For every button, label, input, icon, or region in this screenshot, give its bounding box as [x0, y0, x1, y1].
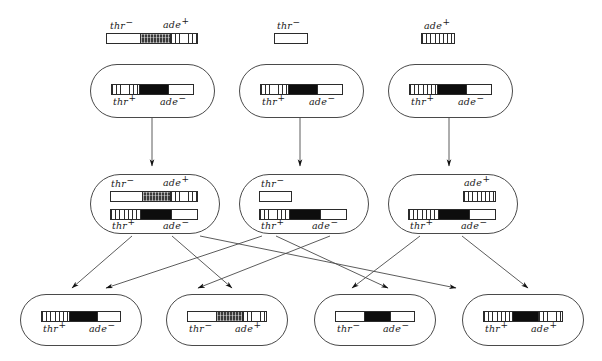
progeny-2-thr-label: thr−: [189, 323, 212, 334]
arrow-m3-to-p4: [462, 236, 528, 288]
m2f-seg-white: [260, 192, 291, 201]
merozygote-2-fragment-thr-label: thr−: [261, 178, 284, 189]
m3c-seg-black: [438, 210, 469, 219]
merozygote-cell-2: [239, 174, 369, 234]
m1c-seg-black: [140, 210, 171, 219]
progeny-4-thr-label: thr+: [485, 323, 508, 334]
m1f-seg-hatch: [170, 192, 197, 201]
merozygote-3-fragment-bar: [463, 191, 496, 202]
fragment-1-right-label: ade+: [163, 19, 189, 30]
progeny-2-ade-label: ade+: [235, 323, 261, 334]
merozygote-2-chromosome-ade-label: ade−: [312, 220, 338, 231]
merozygote-3-chromosome-ade-label: ade−: [461, 220, 487, 231]
fragment-1-seg-hatch: [170, 34, 197, 43]
fragment-1-left-label: thr−: [110, 20, 133, 31]
merozygote-1-chromosome-thr-label: thr+: [112, 220, 135, 231]
fragment-2-left-label: thr−: [277, 20, 300, 31]
fragment-1-bar: [106, 33, 198, 44]
p1-seg-black: [69, 312, 97, 321]
progeny-1-ade-label: ade−: [89, 323, 115, 334]
recipient-cell-2-ade-label: ade−: [309, 96, 335, 107]
progeny-1-thr-label: thr+: [43, 323, 66, 334]
merozygote-3-chromosome-thr-label: thr+: [410, 220, 433, 231]
m3c-seg-hatch: [409, 210, 438, 219]
m1f-seg-white: [111, 192, 142, 201]
p4-seg-black: [512, 312, 538, 321]
arrow-m1-far-to-p4: [200, 236, 456, 288]
merozygote-1-fragment-bar: [110, 191, 198, 202]
p2-seg-stipple: [216, 312, 242, 321]
progeny-4-ade-label: ade+: [531, 323, 557, 334]
recipient-cell-3-thr-label: thr+: [411, 96, 434, 107]
arrow-m2-to-p2: [198, 236, 330, 288]
fragment-1-seg-stipple: [140, 34, 170, 43]
r1c1-seg-black: [139, 85, 168, 94]
fragment-3-right-label: ade+: [424, 20, 450, 31]
arrow-m1-to-p1: [72, 236, 132, 288]
p3-seg-black: [364, 312, 390, 321]
recipient-cell-1-ade-label: ade−: [160, 96, 186, 107]
merozygote-1-fragment-thr-label: thr−: [111, 178, 134, 189]
merozygote-2-chromosome-thr-label: thr+: [261, 220, 284, 231]
fragment-2-bar: [274, 33, 308, 44]
arrow-m3-to-p3: [352, 236, 420, 288]
progeny-3-thr-label: thr−: [337, 323, 360, 334]
arrow-m1-to-p2: [172, 236, 232, 288]
recipient-cell-3-ade-label: ade−: [458, 96, 484, 107]
m1c-seg-hatch: [111, 210, 140, 219]
arrow-m2-to-p3: [276, 236, 388, 288]
fragment-1-seg-white: [107, 34, 140, 43]
fragment-2-seg-white: [275, 34, 307, 43]
recipient-cell-1-thr-label: thr+: [113, 96, 136, 107]
m3f-seg-hatch: [464, 192, 495, 201]
merozygote-cell-3: [388, 174, 518, 234]
m1f-seg-stipple: [142, 192, 170, 201]
figure-canvas: thr− ade+ thr− ade+ thr+: [0, 0, 602, 361]
merozygote-2-fragment-bar: [259, 191, 292, 202]
recipient-cell-2-thr-label: thr+: [262, 96, 285, 107]
progeny-3-ade-label: ade−: [383, 323, 409, 334]
merozygote-cell-1: [90, 174, 220, 234]
fragment-3-bar: [421, 33, 455, 44]
arrow-m2-to-p1: [106, 236, 262, 288]
merozygote-1-fragment-ade-label: ade+: [163, 177, 189, 188]
r1c2-seg-black: [288, 85, 317, 94]
merozygote-1-chromosome-ade-label: ade−: [163, 220, 189, 231]
fragment-3-seg-hatch: [422, 34, 454, 43]
merozygote-3-fragment-ade-label: ade+: [464, 177, 490, 188]
m2c-seg-black: [289, 210, 320, 219]
m2c-seg-hatch: [260, 210, 289, 219]
r1c3-seg-black: [437, 85, 466, 94]
